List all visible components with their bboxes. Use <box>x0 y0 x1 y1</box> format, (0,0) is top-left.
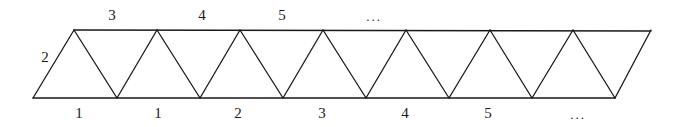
diagonal-edge <box>406 30 449 98</box>
bottom-label-2: 1 <box>154 106 162 121</box>
diagonal-edge <box>33 30 74 98</box>
diagonal-edge <box>490 30 532 98</box>
diagonal-edge <box>532 30 573 98</box>
diagonal-edge <box>74 30 117 98</box>
bottom-label-6: 5 <box>484 106 492 121</box>
top-label-2: 4 <box>198 8 206 23</box>
top-label-ellipsis: ... <box>366 10 382 23</box>
triangle-strip-diagram: 2 3 4 5 ... 1 1 2 3 4 5 ... <box>0 0 684 127</box>
top-label-3: 5 <box>278 8 286 23</box>
top-edge <box>74 30 651 31</box>
bottom-label-5: 4 <box>401 106 409 121</box>
bottom-label-ellipsis: ... <box>570 108 586 121</box>
bottom-label-1: 1 <box>75 106 83 121</box>
diagonal-edge <box>615 30 651 98</box>
diagonal-edge <box>117 30 157 98</box>
bottom-label-3: 2 <box>234 106 242 121</box>
bottom-label-4: 3 <box>318 106 326 121</box>
diagonal-edge <box>283 30 323 98</box>
diagonal-edge <box>449 30 490 98</box>
top-label-1: 3 <box>108 8 116 23</box>
diagonal-edge <box>573 30 615 98</box>
diagonal-edge <box>366 30 406 98</box>
diagonal-edge <box>200 30 240 98</box>
diagonal-edge <box>323 30 366 98</box>
left-edge-label: 2 <box>41 50 49 65</box>
diagonal-edge <box>157 30 200 98</box>
diagonal-edge <box>240 30 283 98</box>
